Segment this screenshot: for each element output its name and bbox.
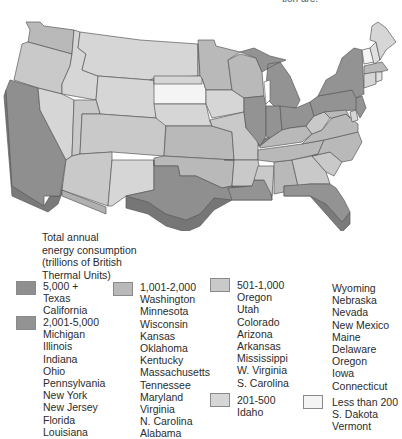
state-new-jersey (356, 96, 366, 118)
state-kansas (164, 126, 234, 160)
legend-swatch-501-1000 (210, 278, 230, 292)
state-connecticut (364, 72, 376, 88)
legend-swatch-5000-plus (16, 281, 36, 295)
legend-item-201-500: 201-500 Idaho (237, 394, 276, 418)
legend-item-2001-5000: 2,001-5,000 Michigan Illinois Indiana Oh… (43, 316, 105, 438)
legend-swatch-less-than-200 (303, 395, 323, 409)
state-new-york (318, 48, 364, 98)
legend-swatch-2001-5000 (16, 316, 36, 330)
legend-item-201-500-continued: Wyoming Nebraska Nevada New Mexico Maine… (332, 282, 389, 392)
state-wyoming (96, 76, 156, 118)
state-montana (78, 32, 198, 80)
state-south-dakota-top (154, 76, 202, 84)
legend-item-1001-2000: 1,001-2,000 Washington Minnesota Wiscons… (140, 281, 210, 439)
state-rhode-island (376, 72, 382, 82)
legend-item-501-1000: 501-1,000 Oregon Utah Colorado Arizona A… (237, 279, 289, 389)
legend-item-less-than-200: Less than 200 S. Dakota Vermont (332, 396, 398, 433)
us-energy-map (0, 0, 402, 231)
legend-swatch-1001-2000 (113, 282, 133, 296)
state-nebraska (154, 104, 212, 126)
legend-title: Total annual energy consumption (trillio… (42, 231, 137, 281)
state-colorado (80, 114, 166, 156)
legend-swatch-201-500 (210, 393, 230, 407)
legend-item-5000-plus: 5,000 + Texas California (43, 280, 87, 317)
